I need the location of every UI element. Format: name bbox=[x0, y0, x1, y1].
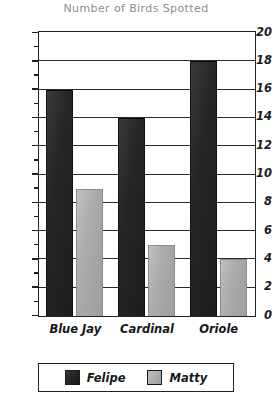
chart-legend: Felipe Matty bbox=[38, 363, 234, 392]
y-axis-tick-label: 16 bbox=[242, 83, 272, 94]
y-axis-tick-minor bbox=[34, 103, 39, 104]
y-axis-tick-major bbox=[32, 60, 39, 62]
y-axis-tick-minor bbox=[34, 131, 39, 132]
y-axis-tick-major bbox=[32, 32, 39, 34]
y-axis-tick-label: 20 bbox=[242, 27, 272, 38]
y-axis-tick-minor bbox=[34, 159, 39, 160]
y-axis-tick-label: 2 bbox=[242, 281, 272, 292]
y-axis-tick-minor bbox=[34, 301, 39, 302]
bar-cardinal-felipe bbox=[118, 118, 145, 316]
y-axis-tick-minor bbox=[34, 46, 39, 47]
y-axis-tick-label: 10 bbox=[242, 168, 272, 179]
y-axis-tick-major bbox=[32, 258, 39, 260]
legend-swatch-icon-matty bbox=[147, 370, 162, 385]
y-axis-tick-major bbox=[32, 286, 39, 288]
legend-item-felipe: Felipe bbox=[65, 370, 126, 385]
y-axis-tick-major bbox=[32, 315, 39, 317]
y-axis-tick-label: 4 bbox=[242, 253, 272, 264]
y-axis-tick-label: 12 bbox=[242, 140, 272, 151]
y-axis-tick-major bbox=[32, 202, 39, 204]
gridline bbox=[39, 60, 255, 61]
y-axis-tick-minor bbox=[34, 74, 39, 75]
y-axis-tick-major bbox=[32, 145, 39, 147]
y-axis-tick-label: 18 bbox=[242, 55, 272, 66]
bar-cardinal-matty bbox=[148, 245, 175, 316]
legend-label-felipe: Felipe bbox=[87, 371, 126, 385]
y-axis-tick-label: 0 bbox=[242, 310, 272, 321]
y-axis-tick-major bbox=[32, 117, 39, 119]
bar-chart: Number of Birds Spotted 0246810121416182… bbox=[0, 0, 272, 406]
y-axis-tick-label: 8 bbox=[242, 196, 272, 207]
legend-item-matty: Matty bbox=[147, 370, 207, 385]
y-axis-tick-minor bbox=[34, 244, 39, 245]
chart-title: Number of Birds Spotted bbox=[0, 2, 272, 15]
x-axis-tick-label: Oriole bbox=[169, 322, 269, 336]
y-axis-tick-label: 6 bbox=[242, 225, 272, 236]
legend-swatch-icon-felipe bbox=[65, 370, 80, 385]
legend-label-matty: Matty bbox=[169, 371, 207, 385]
y-axis-tick-label: 14 bbox=[242, 111, 272, 122]
bar-blue-jay-felipe bbox=[46, 90, 73, 316]
bar-blue-jay-matty bbox=[76, 189, 103, 316]
plot-area bbox=[38, 31, 256, 317]
y-axis-tick-minor bbox=[34, 216, 39, 217]
bar-oriole-felipe bbox=[190, 61, 217, 316]
y-axis-tick-minor bbox=[34, 187, 39, 188]
y-axis-tick-major bbox=[32, 173, 39, 175]
y-axis-tick-major bbox=[32, 230, 39, 232]
y-axis-tick-major bbox=[32, 88, 39, 90]
y-axis-tick-minor bbox=[34, 272, 39, 273]
